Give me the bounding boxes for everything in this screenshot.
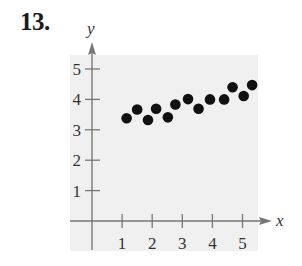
data-point xyxy=(163,112,174,123)
data-point xyxy=(227,82,238,93)
y-tick-label: 4 xyxy=(73,90,82,109)
x-tick-label: 1 xyxy=(118,234,127,253)
y-tick-label: 1 xyxy=(73,182,82,201)
x-tick-label: 5 xyxy=(238,234,247,253)
x-tick-label: 3 xyxy=(178,234,187,253)
x-tick-label: 4 xyxy=(208,234,217,253)
data-point xyxy=(132,104,143,115)
data-point xyxy=(238,91,249,102)
x-tick-label: 2 xyxy=(148,234,157,253)
data-point xyxy=(247,80,258,91)
data-point xyxy=(205,94,216,105)
data-point xyxy=(170,99,181,110)
scatter-plot: 1234512345 y x xyxy=(0,0,302,266)
data-point xyxy=(219,94,230,105)
y-axis-label: y xyxy=(85,19,95,38)
y-tick-label: 3 xyxy=(73,121,82,140)
y-tick-label: 5 xyxy=(73,60,82,79)
data-point xyxy=(143,115,154,126)
x-axis-label: x xyxy=(275,211,284,230)
data-point xyxy=(121,113,132,124)
data-point xyxy=(151,104,162,115)
data-point xyxy=(183,94,194,105)
y-tick-label: 2 xyxy=(73,151,82,170)
data-point xyxy=(193,104,204,115)
